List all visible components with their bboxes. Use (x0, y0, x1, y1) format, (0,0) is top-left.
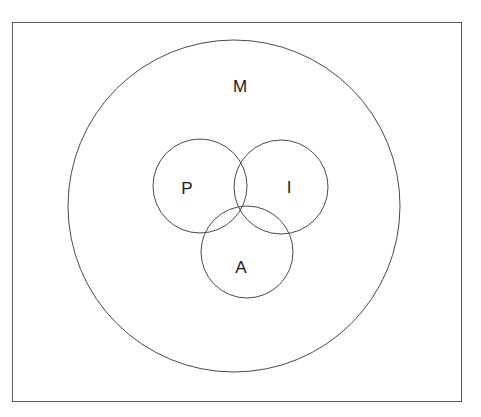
set-circle-p (153, 139, 247, 233)
set-label-p: P (181, 180, 192, 197)
set-label-i: I (287, 179, 292, 196)
set-circle-i (234, 140, 328, 234)
diagram-canvas: M P I A (0, 0, 481, 417)
venn-diagram (0, 0, 481, 417)
universe-label: M (233, 78, 247, 95)
set-label-a: A (235, 259, 246, 276)
